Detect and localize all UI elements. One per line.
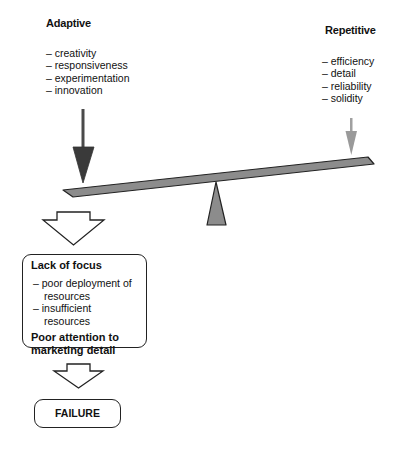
list-item: innovation	[46, 84, 129, 96]
list-item: solidity	[322, 92, 374, 104]
list-item: creativity	[46, 47, 129, 59]
list-item: poor deployment of resources	[31, 277, 140, 302]
adaptive-list: creativity responsiveness experimentatio…	[46, 47, 129, 96]
list-item: efficiency	[322, 55, 374, 67]
outcome-title: Lack of focus	[31, 259, 140, 272]
fulcrum-icon	[207, 182, 226, 225]
down-arrow-icon	[54, 364, 103, 388]
failure-box: FAILURE	[34, 399, 121, 428]
repetitive-heading: Repetitive	[325, 24, 376, 36]
adaptive-force-arrow-icon	[73, 109, 94, 183]
outcome-footer-line1: Poor attention to	[31, 331, 140, 344]
repetitive-force-arrow-icon	[346, 118, 358, 155]
list-item: detail	[322, 67, 374, 79]
outcome-box: Lack of focus poor deployment of resourc…	[22, 254, 147, 348]
list-item: responsiveness	[46, 59, 129, 71]
failure-label: FAILURE	[55, 407, 100, 420]
down-arrow-icon	[43, 212, 104, 245]
repetitive-list: efficiency detail reliability solidity	[322, 55, 374, 104]
outcome-footer-line2: marketing detail	[31, 344, 140, 357]
adaptive-heading: Adaptive	[46, 17, 91, 29]
list-item: insufficient resources	[31, 302, 140, 327]
list-item: experimentation	[46, 72, 129, 84]
list-item: reliability	[322, 80, 374, 92]
outcome-list: poor deployment of resources insufficien…	[31, 277, 140, 327]
